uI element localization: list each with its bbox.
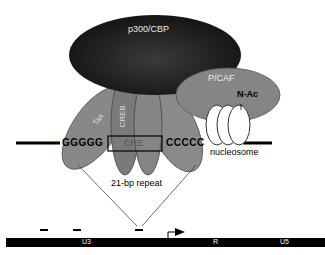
tss-arrow-icon xyxy=(175,228,185,236)
cre-label: CRE xyxy=(124,138,143,148)
right-seq-label: CCCCC xyxy=(166,137,205,148)
left-seq-label: GGGGG xyxy=(62,137,103,148)
ltr-bar xyxy=(6,238,325,247)
diagram xyxy=(0,0,325,255)
creb-label: CREB xyxy=(118,105,127,127)
repeat-label: 21-bp repeat xyxy=(111,178,162,188)
pcaf-label: P/CAF xyxy=(208,73,235,83)
u3-label: U3 xyxy=(82,238,91,245)
r-label: R xyxy=(213,238,218,245)
nucleosome-label: nucleosome xyxy=(210,147,259,157)
acetyl-label: N-Ac xyxy=(237,89,258,99)
u5-label: U5 xyxy=(280,238,289,245)
p300-label: p300/CBP xyxy=(128,24,169,34)
tss-arrow-stem xyxy=(168,232,176,238)
nucleosome-disc xyxy=(228,105,250,145)
